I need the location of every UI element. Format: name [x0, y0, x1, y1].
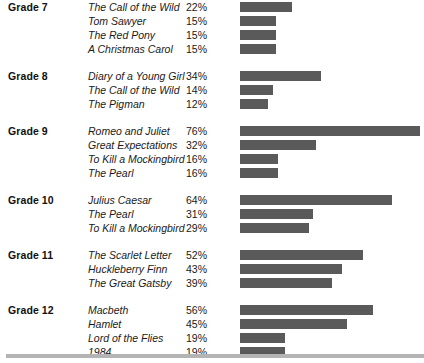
- bar-track: [240, 168, 420, 178]
- book-title: Romeo and Juliet: [88, 124, 170, 138]
- book-title: The Call of the Wild: [88, 0, 180, 14]
- chart-row: Grade 12Macbeth56%: [0, 303, 424, 317]
- book-title: To Kill a Mockingbird: [88, 152, 185, 166]
- bar: [240, 154, 278, 164]
- grade-group: Grade 7The Call of the Wild22%Tom Sawyer…: [0, 0, 424, 56]
- grade-group: Grade 9Romeo and Juliet76%Great Expectat…: [0, 124, 424, 180]
- grade-label: Grade 10: [8, 193, 54, 207]
- bar-track: [240, 44, 420, 54]
- book-title: Huckleberry Finn: [88, 262, 167, 276]
- book-title: The Pearl: [88, 207, 134, 221]
- chart-row: The Great Gatsby39%: [0, 276, 424, 290]
- percent-value: 15%: [186, 42, 232, 56]
- bar-track: [240, 2, 420, 12]
- book-title: The Pearl: [88, 166, 134, 180]
- chart-row: Hamlet45%: [0, 317, 424, 331]
- chart-row: A Christmas Carol15%: [0, 42, 424, 56]
- grade-label: Grade 7: [8, 0, 48, 14]
- chart-row: Grade 10Julius Caesar64%: [0, 193, 424, 207]
- book-title: The Pigman: [88, 97, 145, 111]
- bar: [240, 305, 373, 315]
- percent-value: 43%: [186, 262, 232, 276]
- book-title: The Call of the Wild: [88, 83, 180, 97]
- grade-label: Grade 11: [8, 248, 53, 262]
- percent-value: 29%: [186, 221, 232, 235]
- book-title: A Christmas Carol: [88, 42, 173, 56]
- book-title: Lord of the Flies: [88, 331, 163, 345]
- grade-group: Grade 11The Scarlet Letter52%Huckleberry…: [0, 248, 424, 290]
- bar: [240, 140, 316, 150]
- book-title: Great Expectations: [88, 138, 177, 152]
- bar: [240, 223, 309, 233]
- book-title: To Kill a Mockingbird: [88, 221, 185, 235]
- bar: [240, 44, 276, 54]
- bar-track: [240, 126, 420, 136]
- percent-value: 14%: [186, 83, 232, 97]
- bar-track: [240, 250, 420, 260]
- bar: [240, 250, 363, 260]
- book-title: Tom Sawyer: [88, 14, 146, 28]
- bar: [240, 71, 321, 81]
- bar-track: [240, 85, 420, 95]
- percent-value: 45%: [186, 317, 232, 331]
- grade-group: Grade 8Diary of a Young Girl34%The Call …: [0, 69, 424, 111]
- chart-row: Lord of the Flies19%: [0, 331, 424, 345]
- grade-group: Grade 10Julius Caesar64%The Pearl31%To K…: [0, 193, 424, 235]
- chart-row: Grade 9Romeo and Juliet76%: [0, 124, 424, 138]
- chart-row: Grade 7The Call of the Wild22%: [0, 0, 424, 14]
- bar-track: [240, 140, 420, 150]
- bar-track: [240, 30, 420, 40]
- book-title: The Red Pony: [88, 28, 155, 42]
- grade-group: Grade 12Macbeth56%Hamlet45%Lord of the F…: [0, 303, 424, 359]
- percent-value: 34%: [186, 69, 232, 83]
- chart-row: To Kill a Mockingbird29%: [0, 221, 424, 235]
- bar-track: [240, 278, 420, 288]
- percent-value: 39%: [186, 276, 232, 290]
- book-title: The Scarlet Letter: [88, 248, 171, 262]
- chart-row: Grade 8Diary of a Young Girl34%: [0, 69, 424, 83]
- book-title: The Great Gatsby: [88, 276, 171, 290]
- chart-row: Tom Sawyer15%: [0, 14, 424, 28]
- bar: [240, 319, 347, 329]
- percent-value: 64%: [186, 193, 232, 207]
- percent-value: 32%: [186, 138, 232, 152]
- grade-reading-bar-chart: Grade 7The Call of the Wild22%Tom Sawyer…: [0, 0, 424, 363]
- bar: [240, 168, 278, 178]
- grade-label: Grade 8: [8, 69, 48, 83]
- grade-label: Grade 12: [8, 303, 54, 317]
- chart-row: Grade 11The Scarlet Letter52%: [0, 248, 424, 262]
- bar: [240, 209, 313, 219]
- percent-value: 16%: [186, 166, 232, 180]
- bar: [240, 2, 292, 12]
- percent-value: 15%: [186, 28, 232, 42]
- bar-track: [240, 16, 420, 26]
- percent-value: 31%: [186, 207, 232, 221]
- bar-track: [240, 209, 420, 219]
- book-title: Julius Caesar: [88, 193, 152, 207]
- percent-value: 52%: [186, 248, 232, 262]
- bar-track: [240, 305, 420, 315]
- bar: [240, 333, 285, 343]
- book-title: Macbeth: [88, 303, 128, 317]
- bar-track: [240, 154, 420, 164]
- percent-value: 15%: [186, 14, 232, 28]
- chart-row: Great Expectations32%: [0, 138, 424, 152]
- chart-row: Huckleberry Finn43%: [0, 262, 424, 276]
- chart-row: To Kill a Mockingbird16%: [0, 152, 424, 166]
- bar-track: [240, 71, 420, 81]
- percent-value: 19%: [186, 331, 232, 345]
- chart-row: The Call of the Wild14%: [0, 83, 424, 97]
- bar: [240, 16, 276, 26]
- bar-track: [240, 223, 420, 233]
- bar-track: [240, 195, 420, 205]
- book-title: Hamlet: [88, 317, 121, 331]
- bar-track: [240, 333, 420, 343]
- footer-divider: [6, 354, 424, 358]
- percent-value: 16%: [186, 152, 232, 166]
- percent-value: 22%: [186, 0, 232, 14]
- percent-value: 76%: [186, 124, 232, 138]
- bar: [240, 126, 420, 136]
- chart-row: The Red Pony15%: [0, 28, 424, 42]
- bar: [240, 30, 276, 40]
- grade-label: Grade 9: [8, 124, 48, 138]
